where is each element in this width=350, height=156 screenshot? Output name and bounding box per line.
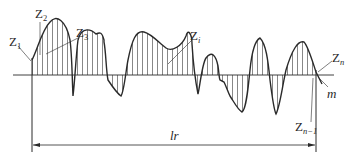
sampling-length-dimension [33,143,315,147]
label-z3: Z3 [76,25,88,42]
leader-zn1 [311,78,313,122]
label-zn: Zn [332,50,344,67]
label-zn-minus-1: Zn−1 [295,119,317,136]
label-sampling-length: lr [170,128,180,143]
label-z1: Z1 [9,34,21,51]
leader-zn [318,61,332,72]
arrow-left-icon [33,143,40,147]
arrow-right-icon [308,143,315,147]
label-zi: Zi [190,28,201,45]
label-z2: Z2 [35,6,47,23]
label-mean-line: m [327,86,336,101]
roughness-profile-diagram: Z1 Z2 Z3 Zi Zn m Zn−1 lr [0,0,350,156]
